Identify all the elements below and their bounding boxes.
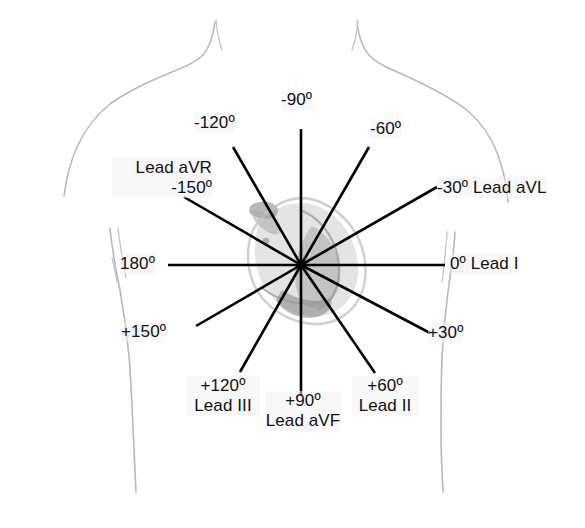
- ecg-axis-diagram: -90º -120º -60º Lead aVR -150º -30º Lead…: [0, 0, 585, 528]
- label-lead-ii-degrees: +60º: [352, 376, 418, 396]
- label-lead-i: 0º Lead I: [450, 254, 519, 274]
- axis-ray-minus120: [233, 147, 301, 265]
- label-lead-avr-name: Lead aVR: [112, 158, 212, 178]
- label-lead-avr-degrees: -150º: [112, 178, 212, 198]
- label-lead-iii: +120º Lead III: [186, 376, 260, 416]
- label-minus-60: -60º: [370, 119, 401, 139]
- axis-ray-minus60: [301, 147, 369, 265]
- axis-ray-plus30: [301, 265, 430, 333]
- label-lead-ii-name: Lead II: [352, 396, 418, 416]
- label-plus-150: +150º: [121, 322, 166, 342]
- label-lead-avl: -30º Lead aVL: [437, 178, 547, 198]
- label-lead-iii-name: Lead III: [186, 396, 260, 416]
- label-plus-30: +30º: [428, 323, 463, 343]
- label-lead-avf-degrees: +90º: [265, 391, 341, 411]
- axis-ray-plus150: [196, 265, 301, 326]
- axis-ray-minus30: [301, 187, 437, 265]
- label-lead-ii: +60º Lead II: [352, 376, 418, 416]
- label-lead-avf-name: Lead aVF: [265, 411, 341, 431]
- label-lead-avf: +90º Lead aVF: [265, 391, 341, 431]
- label-minus-90: -90º: [281, 90, 312, 110]
- label-lead-iii-degrees: +120º: [186, 376, 260, 396]
- axis-ray-plus60: [301, 265, 375, 373]
- label-180-degrees: 180º: [120, 254, 155, 274]
- label-minus-120: -120º: [194, 113, 235, 133]
- label-lead-avr: Lead aVR -150º: [112, 158, 212, 198]
- axis-ray-minus150: [184, 197, 301, 265]
- axis-ray-plus120: [240, 265, 301, 372]
